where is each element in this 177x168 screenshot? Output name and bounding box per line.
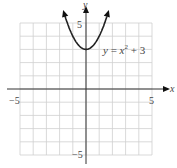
- curve-arrow-left-icon: [62, 10, 68, 18]
- x-tick-5: 5: [149, 96, 154, 106]
- y-tick-5: 5: [77, 20, 82, 30]
- x-axis-label: x: [170, 84, 174, 94]
- curve-arrow-right-icon: [104, 10, 110, 18]
- y-tick-neg5: −5: [72, 150, 83, 160]
- equation-label: y = x2 + 3: [103, 44, 145, 56]
- x-axis-arrow-icon: [163, 86, 170, 92]
- x-tick-neg5: −5: [9, 96, 20, 106]
- eq-rest: + 3: [128, 44, 145, 56]
- eq-equals: =: [108, 44, 120, 56]
- coordinate-plane: [0, 0, 177, 168]
- y-axis-label: y: [83, 0, 87, 10]
